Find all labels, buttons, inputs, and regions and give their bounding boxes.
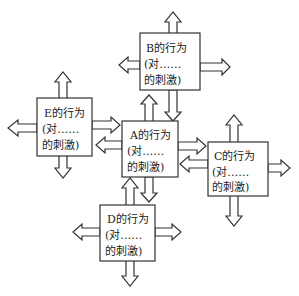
- arrow-left-icon: [8, 120, 37, 136]
- node-c-line2: (对……: [212, 165, 249, 179]
- arrow-right-icon: [200, 59, 230, 75]
- arrow-down-icon: [55, 155, 71, 178]
- node-b-line3: 的刺激): [144, 73, 181, 87]
- node-a-title: A的行为: [129, 128, 171, 142]
- node-d-title: D的行为: [107, 212, 149, 226]
- arrow-left-icon: [119, 57, 140, 73]
- svg-text:(对……: (对……: [105, 228, 142, 242]
- svg-text:的刺激): 的刺激): [144, 73, 181, 87]
- node-c: C的行为 (对…… 的刺激): [180, 115, 290, 226]
- arrow-right-icon: [268, 160, 290, 176]
- node-d-line3: 的刺激): [105, 244, 142, 258]
- arrow-right-icon: [92, 117, 120, 133]
- node-d: D的行为 (对…… 的刺激): [73, 178, 181, 286]
- node-c-line3: 的刺激): [212, 180, 249, 194]
- node-e: E的行为 (对…… 的刺激): [8, 72, 120, 178]
- node-b-line2: (对……: [144, 57, 181, 71]
- node-a: A的行为 (对…… 的刺激): [96, 95, 206, 202]
- node-b-title: B的行为: [146, 41, 187, 55]
- node-c-title: C的行为: [214, 149, 255, 163]
- svg-text:C的行为: C的行为: [214, 149, 255, 163]
- behavior-diagram: B的行为 (对…… 的刺激) E的行为 (对…… 的刺激) C的行为 (对…… …: [0, 0, 299, 296]
- node-e-line3: 的刺激): [42, 138, 79, 152]
- svg-text:(对……: (对……: [42, 122, 79, 136]
- svg-text:(对……: (对……: [127, 144, 164, 158]
- node-e-line2: (对……: [42, 122, 79, 136]
- svg-text:E的行为: E的行为: [44, 106, 85, 120]
- arrow-left-icon: [73, 224, 100, 240]
- svg-text:B的行为: B的行为: [146, 41, 187, 55]
- arrow-down-icon: [226, 195, 242, 226]
- arrow-down-icon: [165, 90, 181, 121]
- arrow-left-icon: [96, 137, 122, 153]
- svg-text:(对……: (对……: [212, 165, 249, 179]
- node-b: B的行为 (对…… 的刺激): [119, 12, 230, 121]
- arrow-left-icon: [180, 156, 208, 172]
- arrow-down-icon: [122, 260, 138, 286]
- arrow-up-icon: [55, 72, 71, 99]
- node-a-line3: 的刺激): [127, 160, 164, 174]
- arrow-up-icon: [141, 95, 157, 122]
- svg-text:的刺激): 的刺激): [105, 244, 142, 258]
- node-e-title: E的行为: [44, 106, 85, 120]
- node-a-line2: (对……: [127, 144, 164, 158]
- node-d-line2: (对……: [105, 228, 142, 242]
- arrow-up-icon: [226, 115, 242, 143]
- svg-text:的刺激): 的刺激): [212, 180, 249, 194]
- svg-text:的刺激): 的刺激): [42, 138, 79, 152]
- arrow-down-icon: [141, 177, 157, 202]
- arrow-up-icon: [122, 178, 138, 206]
- svg-text:D的行为: D的行为: [107, 212, 149, 226]
- svg-text:(对……: (对……: [144, 57, 181, 71]
- arrow-right-icon: [178, 138, 206, 154]
- arrow-right-icon: [155, 224, 181, 240]
- arrow-up-icon: [165, 12, 181, 34]
- svg-text:的刺激): 的刺激): [127, 160, 164, 174]
- svg-text:A的行为: A的行为: [129, 128, 171, 142]
